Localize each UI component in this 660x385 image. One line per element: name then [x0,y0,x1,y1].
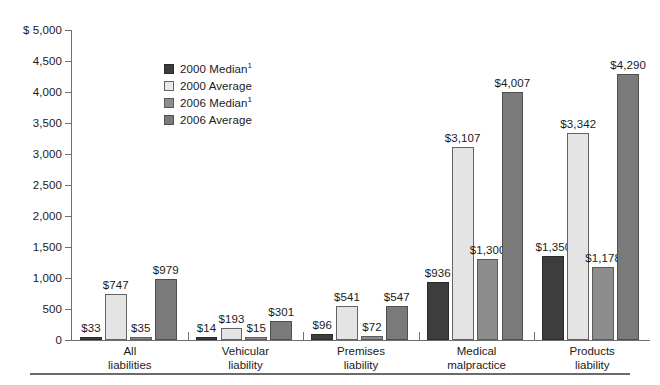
y-axis-tick [65,309,72,310]
y-axis-tick [65,61,72,62]
category-label-line: liability [512,358,660,372]
y-axis-tick-label: 2,000 [0,210,62,222]
bar [386,306,408,340]
y-axis-tick [65,185,72,186]
group-separator-tick [419,332,420,340]
bar [617,74,639,340]
group-separator-tick [303,332,304,340]
bar-value-label: $979 [136,264,196,276]
bar [245,337,267,340]
bar-value-label: $3,107 [433,132,493,144]
bar [196,337,218,340]
y-axis-tick-label: 500 [0,303,62,315]
y-axis-tick [65,92,72,93]
legend-label: 2000 Average [180,80,252,92]
bar-value-label: $747 [86,279,146,291]
y-axis-tick-label: $ 5,000 [0,24,62,36]
legend-swatch [164,64,174,74]
y-axis-tick [65,216,72,217]
legend-footnote-marker: 1 [248,61,253,70]
bar [427,282,449,340]
legend-swatch [164,98,174,108]
x-axis-baseline [71,340,650,341]
y-axis-tick [65,340,72,341]
y-axis-tick [65,123,72,124]
bar-value-label: $301 [251,306,311,318]
legend-label: 2006 Average [180,114,252,126]
y-axis-tick-label: 2,500 [0,179,62,191]
bar-value-label: $547 [367,291,427,303]
legend-item: 2006 Average [164,111,252,128]
y-axis-tick-label: 4,500 [0,55,62,67]
chart-legend: 2000 Median12000 Average2006 Median12006… [164,60,252,128]
bottom-divider-rule [30,373,630,375]
bar [155,279,177,340]
legend-footnote-marker: 1 [248,95,253,104]
y-axis-tick-label: 1,500 [0,241,62,253]
bar-value-label: $4,290 [598,59,658,71]
category-label: Productsliability [512,344,660,372]
y-axis-tick [65,247,72,248]
bar-value-label: $3,342 [548,118,608,130]
y-axis-tick-label: 1,000 [0,272,62,284]
bar [477,259,499,340]
legend-item: 2006 Median1 [164,94,252,111]
group-separator-tick [534,332,535,340]
legend-label: 2006 Median1 [180,97,252,109]
y-axis-tick [65,154,72,155]
y-axis-tick [65,30,72,31]
y-axis-tick-label: 3,000 [0,148,62,160]
bar [311,334,333,340]
bar-chart: $ 5,0004,5004,0003,5003,0002,5002,0001,5… [0,0,660,385]
bar [567,133,589,340]
legend-swatch [164,81,174,91]
legend-label: 2000 Median1 [180,63,252,75]
bar [80,337,102,340]
bar [270,321,292,340]
y-axis-tick-label: 4,000 [0,86,62,98]
category-label-line: Products [512,344,660,358]
y-axis-tick-label: 3,500 [0,117,62,129]
bar-value-label: $4,007 [482,77,542,89]
bar [592,267,614,340]
legend-item: 2000 Median1 [164,60,252,77]
group-separator-tick [188,332,189,340]
bar [130,337,152,340]
bar [361,336,383,340]
bar [502,92,524,340]
plot-area: $33$747$35$979$14$193$15$301$96$541$72$5… [72,30,650,340]
legend-item: 2000 Average [164,77,252,94]
legend-swatch [164,115,174,125]
y-axis-tick [65,278,72,279]
bar [542,256,564,340]
